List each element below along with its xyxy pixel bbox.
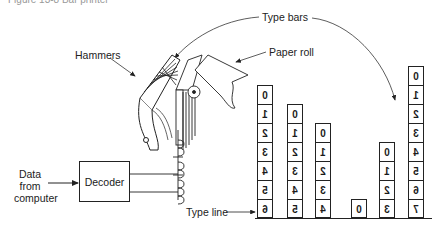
type-character: 1: [288, 124, 302, 143]
type-character: 0: [409, 67, 423, 86]
data-from-computer-label: Data from computer: [14, 168, 46, 204]
type-bar: 0123456: [257, 85, 273, 218]
type-character: 3: [316, 181, 330, 200]
type-character: 4: [288, 181, 302, 200]
type-character: 5: [288, 200, 302, 219]
bar-printer-diagram: Figure 13-8 Bar printer: [0, 0, 441, 232]
diagram-drawing: [0, 0, 441, 232]
type-character: 4: [316, 200, 330, 219]
type-character: 4: [258, 162, 272, 181]
decoder-label: Decoder: [85, 176, 125, 188]
type-bar: 01234567: [408, 66, 424, 218]
type-character: 1: [258, 105, 272, 124]
type-character: 3: [258, 143, 272, 162]
decoder-box: Decoder: [79, 161, 130, 202]
type-character: 0: [288, 105, 302, 124]
type-character: 5: [258, 181, 272, 200]
type-bar: 01234: [315, 123, 331, 218]
type-character: 1: [409, 86, 423, 105]
paper-roll-leader: [236, 52, 266, 62]
type-character: 0: [316, 124, 330, 143]
type-character: 3: [409, 124, 423, 143]
type-bar: 0: [351, 199, 367, 218]
hammers-drawing: [139, 55, 180, 150]
type-bars-label: Type bars: [262, 11, 308, 23]
type-character: 6: [409, 181, 423, 200]
type-character: 5: [409, 162, 423, 181]
type-line-label: Type line: [186, 206, 228, 218]
type-bar: 0123: [379, 142, 395, 218]
type-character: 6: [258, 200, 272, 219]
type-character: 7: [409, 200, 423, 219]
type-character: 0: [258, 86, 272, 105]
type-character: 4: [409, 143, 423, 162]
type-character: 2: [288, 143, 302, 162]
type-character: 0: [380, 143, 394, 162]
type-character: 2: [258, 124, 272, 143]
type-character: 2: [316, 162, 330, 181]
type-character: 1: [316, 143, 330, 162]
type-character: 3: [380, 200, 394, 219]
type-character: 2: [380, 181, 394, 200]
hammers-label: Hammers: [75, 49, 121, 61]
type-bar: 012345: [287, 104, 303, 218]
paper-roll-label: Paper roll: [269, 46, 314, 58]
type-character: 0: [352, 200, 366, 219]
type-character: 1: [380, 162, 394, 181]
type-character: 3: [288, 162, 302, 181]
type-character: 2: [409, 105, 423, 124]
